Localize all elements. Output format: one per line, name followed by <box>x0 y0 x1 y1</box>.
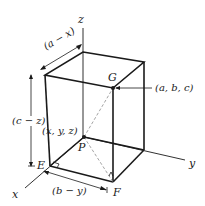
point-G-coordinates: (a, b, c) <box>155 83 193 93</box>
dim-depth-arrow-end <box>76 44 82 50</box>
box-edge-front-left <box>45 75 50 166</box>
diagram-lines <box>0 0 205 206</box>
box-diagram: z y x G (a, b, c) P (x, y, z) E F (a − x… <box>0 0 205 206</box>
point-P-coordinates: (x, y, z) <box>42 126 78 136</box>
point-P-label: P <box>78 142 85 153</box>
dim-depth-arrow-start <box>40 65 46 70</box>
dim-width-arrow-end <box>100 186 107 190</box>
x-axis-label: x <box>12 189 18 200</box>
point-G <box>111 86 115 90</box>
diagonal-P-G <box>84 88 113 137</box>
box-edge-E-F <box>50 166 113 182</box>
point-G-label: G <box>108 72 117 83</box>
point-F-label: F <box>113 187 121 198</box>
dim-height-label: (c − z) <box>12 116 45 126</box>
dim-width-label: (b − y) <box>52 186 87 196</box>
point-E-label: E <box>37 160 45 171</box>
box-edge-P-back <box>84 137 144 150</box>
dim-height-arrow-top <box>29 74 33 79</box>
y-axis-label: y <box>189 158 195 169</box>
z-axis-label: z <box>78 14 84 25</box>
point-P <box>82 135 86 139</box>
box-edge-F-back <box>113 150 144 182</box>
